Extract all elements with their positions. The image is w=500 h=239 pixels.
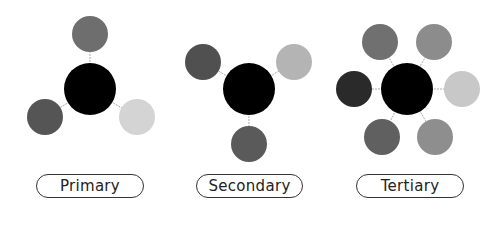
center-color-circle [381,63,433,115]
satellite-color-circle [416,24,452,60]
satellite-color-circle [336,71,372,107]
satellite-color-circle [119,99,155,135]
center-color-circle [223,63,275,115]
satellite-color-circle [231,126,267,162]
satellite-color-circle [362,24,398,60]
color-scheme-diagram [0,0,500,239]
center-color-circle [64,63,116,115]
satellite-color-circle [364,119,400,155]
primary-label: Primary [36,174,144,198]
satellite-color-circle [276,44,312,80]
satellite-color-circle [27,99,63,135]
satellite-color-circle [444,71,480,107]
primary-color-group [27,16,155,135]
secondary-label: Secondary [196,174,303,198]
satellite-color-circle [185,44,221,80]
secondary-color-group [185,44,312,162]
satellite-color-circle [417,119,453,155]
tertiary-label: Tertiary [356,174,464,198]
tertiary-color-group [336,24,480,155]
satellite-color-circle [72,16,108,52]
